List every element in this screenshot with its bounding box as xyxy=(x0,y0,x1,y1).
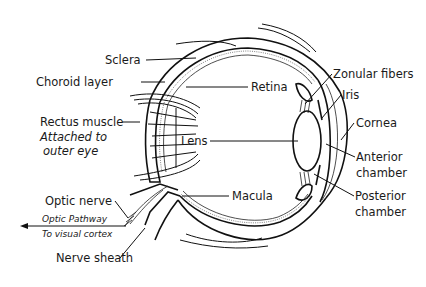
sclera-outer-lower xyxy=(178,198,326,240)
rectus-muscle xyxy=(130,24,316,248)
label-posterior-1: Posterior xyxy=(355,189,406,203)
label-anterior-2: chamber xyxy=(356,166,407,180)
label-retina: Retina xyxy=(251,80,288,94)
label-cornea: Cornea xyxy=(356,116,397,130)
optic-nerve-lower xyxy=(145,192,180,225)
label-iris: Iris xyxy=(342,88,359,102)
label-anterior-1: Anterior xyxy=(356,150,403,164)
nerve-sheath-lower xyxy=(155,200,178,240)
cornea-inner xyxy=(318,80,330,202)
label-sclera: Sclera xyxy=(105,53,141,67)
retina-upper xyxy=(168,55,312,104)
label-posterior-2: chamber xyxy=(355,205,406,219)
eye-anatomy-diagram: Sclera Choroid layer Retina Rectus muscl… xyxy=(0,0,426,287)
choroid-upper xyxy=(160,48,318,102)
posterior-wall-outer xyxy=(146,100,150,172)
label-rectus-note-2: outer eye xyxy=(43,144,98,158)
label-optic-pathway: Optic Pathway xyxy=(42,214,108,224)
label-rectus-muscle: Rectus muscle xyxy=(40,115,123,129)
label-lens: Lens xyxy=(181,134,208,148)
labels: Sclera Choroid layer Retina Rectus muscl… xyxy=(36,53,413,265)
optic-pathway-arrowhead-icon xyxy=(20,223,28,229)
label-visual-cortex: To visual cortex xyxy=(42,229,113,239)
label-zonular-fibers: Zonular fibers xyxy=(333,67,413,81)
ciliary-body-lower xyxy=(296,185,312,201)
label-optic-nerve: Optic nerve xyxy=(45,194,112,208)
label-nerve-sheath: Nerve sheath xyxy=(56,251,133,265)
iris-upper xyxy=(318,100,322,120)
posterior-wall-choroid xyxy=(156,102,160,172)
label-choroid-layer: Choroid layer xyxy=(36,75,113,89)
label-macula: Macula xyxy=(232,189,273,203)
eye-globe xyxy=(124,38,347,240)
label-rectus-note-1: Attached to xyxy=(39,130,107,144)
